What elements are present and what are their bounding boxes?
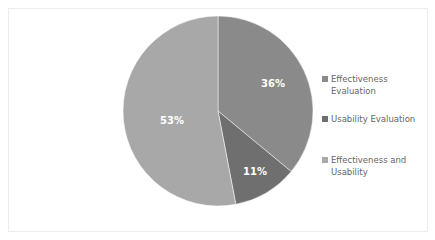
slice-label-effectiveness: 36% <box>261 78 285 89</box>
legend-label: Effectiveness and Usability <box>331 154 427 178</box>
legend-label: Effectiveness Evaluation <box>331 73 427 97</box>
legend-swatch-icon <box>322 76 328 82</box>
legend-label: Usability Evaluation <box>331 113 427 125</box>
legend-item-both: Effectiveness and Usability <box>322 154 427 178</box>
legend-item-effectiveness: Effectiveness Evaluation <box>322 73 427 97</box>
legend-swatch-icon <box>322 116 328 122</box>
slice-label-usability: 11% <box>243 166 267 177</box>
slice-label-both: 53% <box>160 115 184 126</box>
legend-swatch-icon <box>322 157 328 163</box>
legend-item-usability: Usability Evaluation <box>322 113 427 125</box>
